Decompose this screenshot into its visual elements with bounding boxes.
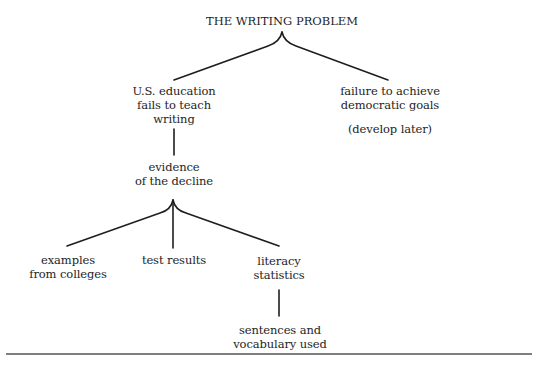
node-literacy-statistics: literacy statistics — [253, 254, 304, 282]
top-brace-right-connector — [282, 32, 388, 80]
develop-later-note: (develop later) — [340, 122, 440, 136]
node-text-line: evidence — [135, 160, 213, 174]
node-text-line: examples — [29, 253, 107, 267]
node-text-line: statistics — [253, 268, 304, 282]
outline-tree-diagram: THE WRITING PROBLEM U.S. education fails… — [0, 0, 539, 375]
evidence-brace-right-connector — [173, 200, 279, 246]
node-democratic-goals: failure to achieve democratic goals (dev… — [340, 84, 440, 136]
node-us-education: U.S. education fails to teach writing — [132, 84, 215, 126]
node-text-line: of the decline — [135, 174, 213, 188]
node-examples-from-colleges: examples from colleges — [29, 253, 107, 281]
evidence-brace-left-connector — [67, 200, 173, 246]
node-text-line: vocabulary used — [233, 337, 327, 351]
node-text-line: sentences and — [233, 323, 327, 337]
node-text-line: literacy — [253, 254, 304, 268]
node-text-line: failure to achieve — [340, 84, 440, 98]
node-text-line: writing — [132, 112, 215, 126]
root-node-title: THE WRITING PROBLEM — [206, 14, 358, 28]
node-test-results: test results — [142, 253, 206, 267]
node-evidence-of-decline: evidence of the decline — [135, 160, 213, 188]
top-brace-left-connector — [174, 32, 282, 80]
node-text-line: democratic goals — [340, 98, 440, 112]
connector-lines — [0, 0, 539, 375]
node-sentences-vocabulary: sentences and vocabulary used — [233, 323, 327, 351]
title-text: THE WRITING PROBLEM — [206, 14, 358, 28]
node-text-line: test results — [142, 253, 206, 267]
node-text-line: fails to teach — [132, 98, 215, 112]
node-text-line: from colleges — [29, 267, 107, 281]
node-text-line: U.S. education — [132, 84, 215, 98]
